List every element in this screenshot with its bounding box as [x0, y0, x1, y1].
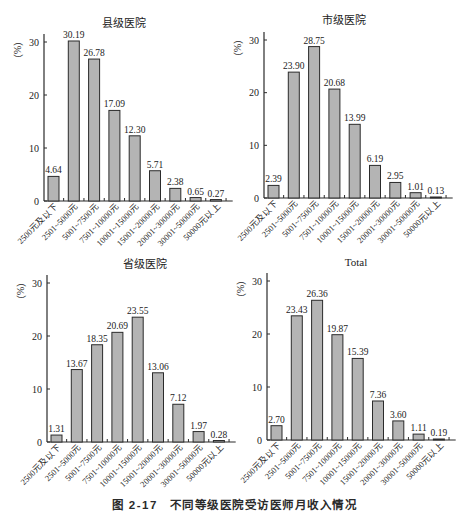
bar-value-label: 2.70 [268, 415, 285, 425]
figure-caption: 图 2-17不同等级医院受访医师月收入情况 [0, 496, 469, 512]
bar [291, 316, 302, 440]
bar-value-label: 0.13 [428, 186, 445, 196]
bar [410, 193, 421, 198]
bar [312, 300, 323, 440]
y-tick-label: 10 [29, 143, 39, 154]
bar-value-label: 0.19 [431, 428, 448, 438]
bar-value-label: 7.12 [170, 393, 187, 403]
bar [173, 404, 184, 442]
y-tick-label: 10 [32, 384, 42, 395]
bar [153, 373, 164, 442]
bar [89, 59, 100, 201]
bar [51, 435, 62, 442]
y-tick-label: 10 [252, 382, 262, 393]
charts-canvas: 县级医院（%）01020304.642500元及以下30.192501~5000… [0, 0, 469, 518]
chart-title: Total [345, 256, 367, 268]
bar-value-label: 0.65 [187, 187, 204, 197]
figure-container: 县级医院（%）01020304.642500元及以下30.192501~5000… [0, 0, 469, 518]
bar [150, 171, 161, 201]
chart-panel-total: Total（%）01020302.702500元及以下23.432501~500… [235, 256, 456, 487]
bar-value-label: 12.30 [124, 125, 146, 135]
bar [433, 439, 444, 440]
bar-value-label: 2.38 [167, 177, 184, 187]
y-tick-label: 0 [37, 437, 42, 448]
figure-caption-text: 不同等级医院受访医师月收入情况 [170, 498, 358, 512]
bar-value-label: 26.78 [83, 48, 105, 58]
bar [109, 110, 120, 201]
y-axis-label: （%） [15, 277, 26, 305]
bar [390, 182, 401, 198]
bar-value-label: 2.39 [265, 174, 282, 184]
y-tick-label: 30 [252, 276, 262, 287]
bar-value-label: 19.87 [327, 324, 349, 334]
bar-value-label: 23.55 [127, 306, 149, 316]
y-tick-label: 30 [249, 35, 259, 46]
bar [268, 185, 279, 198]
bar-value-label: 28.75 [303, 36, 325, 46]
y-axis-label: （%） [12, 36, 23, 64]
bar [393, 421, 404, 440]
bar-value-label: 20.69 [107, 321, 129, 331]
bar-value-label: 5.71 [147, 160, 164, 170]
y-tick-label: 20 [29, 90, 39, 101]
bar [129, 136, 140, 201]
bar [413, 434, 424, 440]
bar-value-label: 2.95 [387, 171, 404, 181]
bar-value-label: 7.36 [370, 390, 387, 400]
bar-value-label: 23.90 [283, 61, 305, 71]
y-tick-label: 20 [32, 331, 42, 342]
bar [210, 200, 221, 201]
bar-value-label: 1.01 [407, 182, 424, 192]
bar-value-label: 13.06 [147, 362, 169, 372]
bar-value-label: 1.11 [410, 423, 427, 433]
bar-value-label: 18.35 [86, 334, 108, 344]
figure-caption-number: 图 2-17 [112, 499, 158, 511]
bar [193, 432, 204, 442]
bar [213, 441, 224, 442]
bar [309, 47, 320, 198]
y-tick-label: 30 [32, 278, 42, 289]
bar [332, 335, 343, 440]
bar [329, 89, 340, 198]
chart-title: 县级医院 [102, 16, 146, 29]
y-tick-label: 20 [249, 87, 259, 98]
bar-value-label: 15.39 [347, 347, 369, 357]
bar [92, 345, 103, 442]
bar [370, 165, 381, 198]
bar [71, 370, 82, 442]
bar [48, 176, 59, 201]
bar-value-label: 30.19 [63, 30, 85, 40]
bar-value-label: 6.19 [367, 154, 384, 164]
bar-value-label: 3.60 [390, 410, 407, 420]
bar-value-label: 13.99 [344, 113, 366, 123]
chart-panel-city: 市级医院（%）01020302.392500元及以下23.902501~5000… [232, 13, 453, 245]
bar-value-label: 13.67 [66, 359, 88, 369]
y-tick-label: 30 [29, 37, 39, 48]
chart-title: 市级医院 [322, 13, 366, 26]
bar-value-label: 23.43 [286, 305, 308, 315]
bar-value-label: 0.27 [208, 189, 225, 199]
bar-value-label: 17.09 [104, 99, 126, 109]
y-axis-label: （%） [232, 34, 243, 62]
bar [271, 426, 282, 440]
y-tick-label: 0 [254, 193, 259, 204]
bar [352, 358, 363, 440]
bar [68, 41, 79, 201]
bar [112, 332, 123, 442]
bar [170, 188, 181, 201]
bar-value-label: 1.31 [48, 424, 65, 434]
bar [373, 401, 384, 440]
bar-value-label: 1.97 [190, 421, 207, 431]
y-tick-label: 0 [257, 435, 262, 446]
bar [190, 198, 201, 201]
bar-value-label: 20.68 [324, 78, 346, 88]
bar [132, 317, 143, 442]
bar-value-label: 0.28 [211, 430, 228, 440]
bar [430, 197, 441, 198]
y-tick-label: 10 [249, 140, 259, 151]
bar [349, 124, 360, 198]
chart-panel-province: 省级医院（%）01020301.312500元及以下13.672501~5000… [15, 257, 236, 489]
y-axis-label: （%） [235, 275, 246, 303]
chart-title: 省级医院 [123, 257, 167, 270]
bar-value-label: 4.64 [45, 165, 62, 175]
